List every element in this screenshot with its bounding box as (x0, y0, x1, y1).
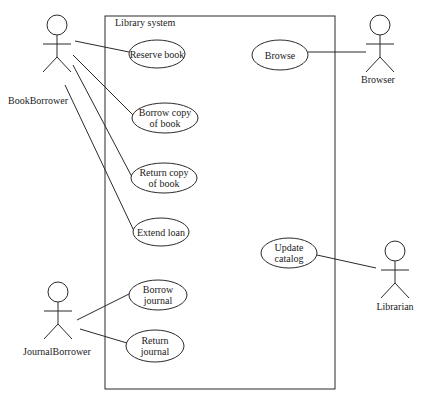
use-case-label: Update (275, 242, 304, 253)
use-case-label: of book (150, 118, 181, 129)
association-journalborrower-borrow-journal[interactable] (77, 293, 131, 320)
use-case-update-catalog[interactable]: Updatecatalog (261, 238, 317, 268)
actor-librarian[interactable]: Librarian (376, 241, 413, 312)
use-case-diagram: Library system Reserve bookBorrow copyof… (0, 0, 421, 403)
use-case-return-journal[interactable]: Returnjournal (126, 330, 184, 362)
use-case-browse[interactable]: Browse (252, 40, 308, 70)
use-case-extend-loan[interactable]: Extend loan (133, 218, 189, 246)
association-bookborrower-borrow-copy-of-book[interactable] (73, 55, 133, 115)
use-case-label: journal (143, 295, 173, 306)
actor-journalborrower[interactable]: JournalBorrower (23, 282, 91, 357)
stick-figure-icon (44, 282, 72, 339)
associations (65, 41, 376, 343)
use-case-reserve-book[interactable]: Reserve book (129, 40, 185, 68)
actor-browser[interactable]: Browser (361, 15, 396, 85)
actor-label: Browser (361, 74, 396, 85)
use-case-label: of book (149, 178, 180, 189)
use-case-return-copy-of-book[interactable]: Return copyof book (131, 163, 197, 193)
use-case-label: Extend loan (137, 227, 185, 238)
actor-label: JournalBorrower (23, 346, 91, 357)
use-case-borrow-journal[interactable]: Borrowjournal (129, 280, 187, 310)
actor-label: Librarian (376, 301, 413, 312)
use-case-label: Browse (265, 50, 296, 61)
use-cases: Reserve bookBorrow copyof bookReturn cop… (126, 40, 317, 362)
system-title: Library system (115, 17, 175, 28)
association-bookborrower-reserve-book[interactable] (75, 41, 129, 52)
use-case-borrow-copy-of-book[interactable]: Borrow copyof book (132, 103, 198, 133)
use-case-label: Reserve book (130, 49, 185, 60)
actors: BookBorrowerJournalBorrowerBrowserLibrar… (8, 15, 414, 357)
stick-figure-icon (43, 15, 71, 72)
use-case-label: Borrow copy (139, 107, 192, 118)
association-journalborrower-return-journal[interactable] (80, 329, 127, 343)
association-librarian-update-catalog[interactable] (317, 255, 376, 268)
actor-label: BookBorrower (8, 95, 69, 106)
use-case-label: Return copy (139, 167, 188, 178)
stick-figure-icon (366, 15, 394, 72)
actor-bookborrower[interactable]: BookBorrower (8, 15, 71, 106)
stick-figure-icon (381, 241, 409, 298)
use-case-label: Borrow (143, 284, 174, 295)
use-case-label: journal (140, 346, 170, 357)
association-bookborrower-extend-loan[interactable] (65, 85, 134, 231)
use-case-label: Return (141, 335, 168, 346)
use-case-label: catalog (275, 253, 304, 264)
